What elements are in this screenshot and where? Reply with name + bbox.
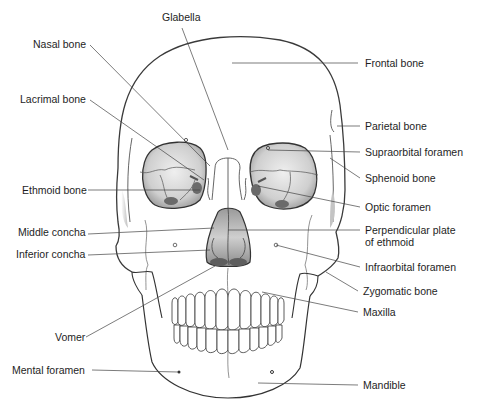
teeth [172,289,284,354]
right-temporal-shade [330,190,335,228]
label-nasal-bone: Nasal bone [33,38,86,50]
nasal-cavity [206,208,250,267]
label-maxilla: Maxilla [363,306,396,318]
nasal-bones [208,158,246,215]
label-supraorbital-foramen: Supraorbital foramen [365,146,463,158]
mental-foramen-right [271,371,274,374]
label-sphenoid-bone: Sphenoid bone [365,172,436,184]
label-inferior-concha: Inferior concha [16,248,85,260]
label-lacrimal-bone: Lacrimal bone [20,93,86,105]
label-infraorbital-foramen: Infraorbital foramen [365,261,456,273]
label-vomer: Vomer [55,331,85,343]
label-ethmoid-bone: Ethmoid bone [22,184,87,196]
label-perpendicular-plate-line2: of ethmoid [365,236,414,248]
label-mandible: Mandible [363,379,406,391]
left-temporal-shade [121,190,128,228]
label-parietal-bone: Parietal bone [365,120,427,132]
label-middle-concha: Middle concha [18,226,86,238]
label-mental-foramen: Mental foramen [12,364,85,376]
label-glabella: Glabella [162,11,201,23]
right-orbit [250,143,318,209]
left-orbit [140,138,206,208]
label-zygomatic-bone: Zygomatic bone [363,285,438,297]
label-optic-foramen: Optic foramen [365,201,431,213]
label-frontal-bone: Frontal bone [365,57,424,69]
label-perpendicular-plate-line1: Perpendicular plate [365,224,455,236]
